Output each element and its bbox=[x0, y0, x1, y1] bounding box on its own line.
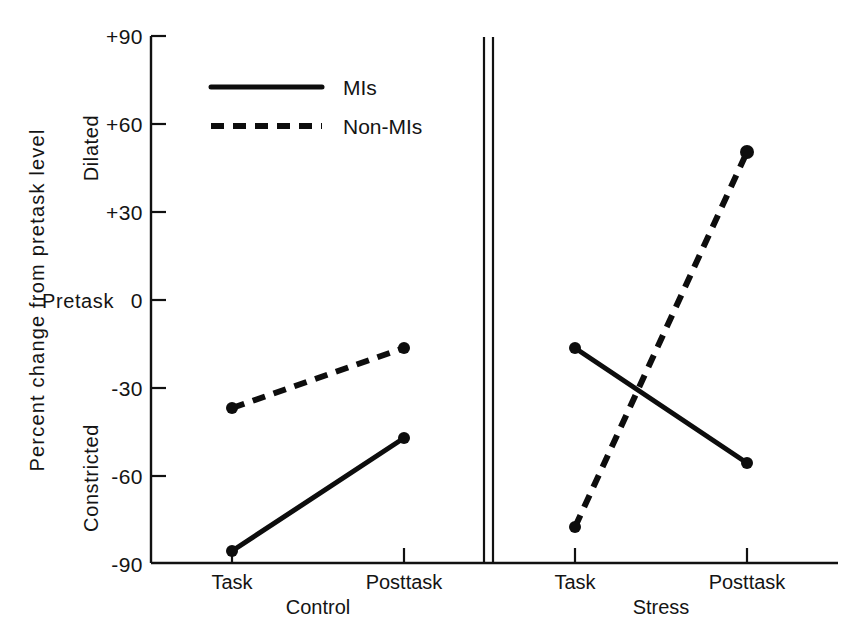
series-mis-control-line bbox=[232, 438, 404, 551]
axis-region-constricted: Constricted bbox=[80, 424, 102, 532]
xtick-label-stress-posttask: Posttask bbox=[709, 571, 787, 593]
datapoint-non-mis-stress-posttask bbox=[740, 145, 754, 159]
axis-region-dilated: Dilated bbox=[80, 115, 102, 181]
datapoint-mis-control-task bbox=[226, 545, 238, 557]
group-label-stress: Stress bbox=[633, 596, 690, 618]
xtick-label-stress-task: Task bbox=[554, 571, 596, 593]
legend-label-non-mis: Non-MIs bbox=[343, 115, 422, 138]
series-mis-stress-line bbox=[575, 348, 747, 463]
ytick-label-zero: 0 bbox=[131, 289, 143, 312]
legend: MIs Non-MIs bbox=[211, 76, 422, 138]
series-non-mis-stress-line bbox=[575, 152, 747, 527]
ytick-label-plus30: +30 bbox=[106, 201, 143, 224]
ytick-label-plus60: +60 bbox=[106, 113, 143, 136]
group-label-control: Control bbox=[286, 596, 350, 618]
ytick-label-plus90: +90 bbox=[106, 25, 143, 48]
ytick-label-minus30: -30 bbox=[111, 377, 143, 400]
datapoint-mis-stress-posttask bbox=[741, 457, 753, 469]
ytick-label-minus90: -90 bbox=[111, 553, 143, 576]
ytick-label-minus60: -60 bbox=[111, 465, 143, 488]
chart-figure: +90 +60 +30 0 -30 -60 -90 Dilated Pretas… bbox=[0, 0, 852, 629]
series-non-mis-control-line bbox=[232, 348, 404, 408]
datapoint-mis-stress-task bbox=[569, 342, 581, 354]
axis-region-pretask: Pretask bbox=[42, 290, 114, 312]
xtick-label-control-posttask: Posttask bbox=[366, 571, 444, 593]
y-axis-title: Percent change from pretask level bbox=[26, 128, 48, 471]
xtick-label-control-task: Task bbox=[211, 571, 253, 593]
datapoint-non-mis-stress-task bbox=[569, 521, 581, 533]
datapoint-non-mis-control-posttask bbox=[398, 342, 410, 354]
chart-svg: +90 +60 +30 0 -30 -60 -90 Dilated Pretas… bbox=[0, 0, 852, 629]
legend-label-mis: MIs bbox=[343, 76, 377, 99]
datapoint-non-mis-control-task bbox=[226, 402, 238, 414]
datapoint-mis-control-posttask bbox=[398, 432, 410, 444]
